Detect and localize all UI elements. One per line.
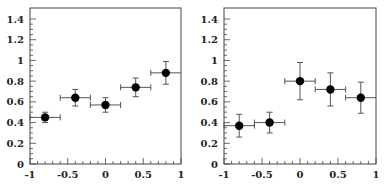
y-tick-label: 0 bbox=[211, 159, 218, 170]
marker-circle-icon bbox=[41, 113, 49, 121]
plot-panel-2: 00.20.40.60.811.21.4-1-0.500.51 bbox=[201, 8, 380, 180]
x-tick-label: 0.5 bbox=[329, 169, 346, 180]
x-tick-label: 1 bbox=[178, 169, 185, 180]
y-tick-label: 1.2 bbox=[201, 34, 218, 45]
data-point bbox=[90, 98, 120, 113]
y-tick-label: 1.2 bbox=[7, 34, 24, 45]
x-tick-label: -0.5 bbox=[251, 169, 273, 180]
y-tick-label: 0.6 bbox=[7, 96, 24, 107]
y-tick-label: 1 bbox=[211, 55, 218, 66]
marker-circle-icon bbox=[326, 85, 334, 93]
data-point bbox=[121, 78, 151, 97]
data-point bbox=[346, 82, 376, 113]
x-tick-label: 1 bbox=[373, 169, 380, 180]
y-tick-label: 0.8 bbox=[7, 76, 24, 87]
x-tick-label: 0 bbox=[297, 169, 304, 180]
y-tick-label: 0 bbox=[17, 159, 24, 170]
y-tick-label: 1.4 bbox=[7, 14, 24, 25]
x-tick-label: 0 bbox=[102, 169, 109, 180]
marker-circle-icon bbox=[162, 69, 170, 77]
data-point bbox=[224, 114, 254, 137]
marker-circle-icon bbox=[265, 118, 273, 126]
y-tick-label: 0.6 bbox=[201, 96, 218, 107]
data-point bbox=[30, 112, 60, 122]
data-point bbox=[151, 61, 181, 84]
data-point bbox=[254, 112, 284, 133]
y-tick-label: 1 bbox=[17, 55, 24, 66]
marker-circle-icon bbox=[71, 94, 79, 102]
y-tick-label: 0.4 bbox=[7, 117, 24, 128]
marker-circle-icon bbox=[357, 94, 365, 102]
x-tick-label: -1 bbox=[218, 169, 229, 180]
y-tick-label: 0.8 bbox=[201, 76, 218, 87]
x-tick-label: -1 bbox=[24, 169, 35, 180]
y-tick-label: 0.2 bbox=[201, 138, 218, 149]
x-tick-label: -0.5 bbox=[57, 169, 79, 180]
chart-canvas: 00.20.40.60.811.21.4-1-0.500.5100.20.40.… bbox=[0, 0, 387, 185]
data-point bbox=[285, 63, 315, 100]
marker-circle-icon bbox=[101, 101, 109, 109]
y-tick-label: 0.4 bbox=[201, 117, 218, 128]
x-tick-label: 0.5 bbox=[135, 169, 152, 180]
marker-circle-icon bbox=[235, 121, 243, 129]
plot-frame bbox=[30, 8, 181, 164]
data-point bbox=[315, 73, 345, 106]
y-tick-label: 0.2 bbox=[7, 138, 24, 149]
marker-circle-icon bbox=[296, 77, 304, 85]
data-point bbox=[60, 89, 90, 106]
plot-panel-1: 00.20.40.60.811.21.4-1-0.500.51 bbox=[7, 8, 185, 180]
y-tick-label: 1.4 bbox=[201, 14, 218, 25]
marker-circle-icon bbox=[132, 83, 140, 91]
